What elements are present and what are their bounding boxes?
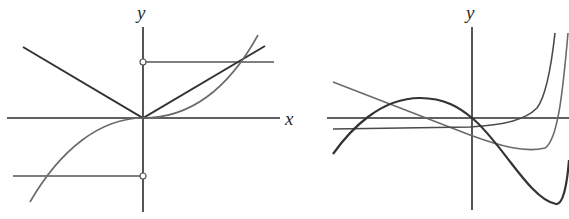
- curve-c: [333, 98, 569, 204]
- curve-a: [333, 33, 568, 150]
- curve-b: [333, 33, 555, 129]
- x-axis-label: x: [285, 109, 293, 128]
- absolute-value-curve: [23, 46, 265, 118]
- y-axis-label: y: [137, 3, 145, 22]
- left-graph: y x: [0, 0, 300, 219]
- y-axis-label: y: [466, 3, 474, 22]
- open-circle-lower-icon: [140, 173, 146, 179]
- right-graph-canvas: [300, 0, 569, 219]
- left-graph-canvas: [0, 0, 300, 219]
- right-graph: y: [300, 0, 569, 219]
- open-circle-upper-icon: [140, 59, 146, 65]
